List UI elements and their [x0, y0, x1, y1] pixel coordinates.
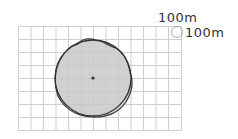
- center-dot-icon: [91, 76, 94, 79]
- scale-label-vertical: 100m: [185, 26, 224, 39]
- scale-label-horizontal: 100m: [158, 11, 197, 24]
- scale-circle-icon: [172, 27, 183, 38]
- map-diagram: [0, 0, 238, 139]
